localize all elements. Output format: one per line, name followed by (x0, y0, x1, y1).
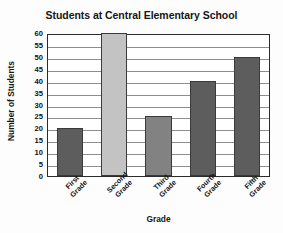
y-axis-title: Number of Students (6, 41, 16, 161)
y-axis-tick-label: 55 (23, 42, 43, 50)
chart-title: Students at Central Elementary School (0, 9, 283, 21)
bar-first-grade[interactable] (57, 128, 83, 176)
y-axis-tick-label: 50 (23, 54, 43, 62)
bar-second-grade[interactable] (101, 33, 127, 176)
x-tick-slot: FourthGrade (181, 177, 226, 213)
bar-slot (136, 35, 180, 176)
y-axis-tick-label: 5 (23, 161, 43, 169)
y-axis-tick-label: 20 (23, 126, 43, 134)
bar-fifth-grade[interactable] (234, 57, 260, 176)
bar-slot (92, 35, 136, 176)
y-axis-tick-label: 15 (23, 137, 43, 145)
bar-slot (225, 35, 269, 176)
x-tick-slot: SecondGrade (92, 177, 137, 213)
bars-layer (48, 35, 269, 176)
x-tick-slot: FirstGrade (47, 177, 92, 213)
y-axis-tick-label: 0 (23, 173, 43, 181)
plot-area (47, 34, 270, 177)
y-axis-tick-label: 25 (23, 114, 43, 122)
x-axis-title: Grade (47, 214, 270, 224)
bar-slot (48, 35, 92, 176)
bar-slot (181, 35, 225, 176)
y-axis-tick-label: 10 (23, 149, 43, 157)
y-axis-tick-label: 45 (23, 66, 43, 74)
x-tick-slot: ThirdGrade (136, 177, 181, 213)
bar-fourth-grade[interactable] (190, 81, 216, 176)
y-axis-tick-labels: 051015202530354045505560 (23, 34, 43, 177)
x-axis-tick-labels: FirstGradeSecondGradeThirdGradeFourthGra… (47, 177, 270, 213)
y-axis-tick-label: 30 (23, 102, 43, 110)
y-axis-tick-label: 60 (23, 30, 43, 38)
bar-chart-figure: Students at Central Elementary School Nu… (0, 0, 283, 233)
y-axis-tick-label: 35 (23, 90, 43, 98)
x-tick-slot: FifthGrade (225, 177, 270, 213)
bar-third-grade[interactable] (145, 116, 171, 176)
y-axis-tick-label: 40 (23, 78, 43, 86)
